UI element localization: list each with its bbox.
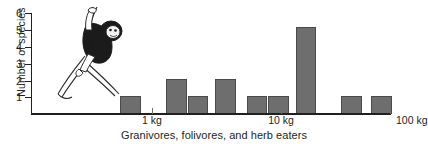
x-tick-10kg <box>281 108 282 114</box>
x-tick-label-1kg: 1 kg <box>142 114 162 126</box>
y-tick-label-6: 6 <box>6 7 22 19</box>
x-axis-line <box>31 113 391 115</box>
primate-illustration-icon <box>55 4 127 106</box>
y-tick-label-1: 1 <box>6 91 22 103</box>
y-tick-3 <box>25 64 31 65</box>
y-axis-line <box>31 13 32 114</box>
bar-bin-8 <box>341 96 362 113</box>
y-tick-4 <box>25 47 31 48</box>
y-tick-label-4: 4 <box>6 41 22 53</box>
y-tick-6 <box>25 13 31 14</box>
x-tick-100kg <box>390 108 391 114</box>
bar-bin-7 <box>296 27 316 114</box>
histogram-figure: Number of species 6 5 4 3 2 1 <box>0 0 428 144</box>
bar-bin-5 <box>247 96 267 113</box>
x-tick-1kg <box>152 108 153 114</box>
x-axis-title: Granivores, folivores, and herb eaters <box>0 129 428 141</box>
x-tick-label-100kg: 100 kg <box>396 114 428 126</box>
bar-bin-3 <box>188 96 208 113</box>
bar-bin-9 <box>371 96 392 113</box>
y-tick-label-5: 5 <box>6 24 22 36</box>
bar-bin-1 <box>120 96 141 113</box>
bar-bin-6 <box>268 96 289 113</box>
y-tick-5 <box>25 30 31 31</box>
y-tick-2 <box>25 81 31 82</box>
bar-bin-4 <box>215 79 236 114</box>
x-tick-label-10kg: 10 kg <box>268 114 294 126</box>
bar-bin-2 <box>166 79 187 114</box>
y-tick-label-2: 2 <box>6 75 22 87</box>
y-tick-label-3: 3 <box>6 58 22 70</box>
y-tick-1 <box>25 97 31 98</box>
